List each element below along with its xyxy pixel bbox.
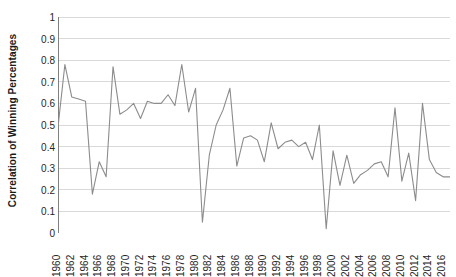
x-axis-tick-labels: 1960196219641966196819701972197419761978… xyxy=(58,236,450,277)
x-tick-label: 2000 xyxy=(327,255,337,277)
x-tick-label: 1976 xyxy=(162,255,172,277)
x-tick-label: 2008 xyxy=(382,255,392,277)
plot-area xyxy=(58,12,450,233)
x-tick-label: 1982 xyxy=(203,255,213,277)
x-tick-label: 1964 xyxy=(80,255,90,277)
x-tick-label: 2014 xyxy=(423,255,433,277)
x-tick-label: 1984 xyxy=(217,255,227,277)
y-tick-label: 0.1 xyxy=(41,206,55,217)
y-tick-label: 0.4 xyxy=(41,141,55,152)
x-tick-label: 1986 xyxy=(231,255,241,277)
y-tick-label: 0.9 xyxy=(41,33,55,44)
x-tick-label: 1970 xyxy=(121,255,131,277)
chart-container: Correlation of Winning Percentages 00.10… xyxy=(0,0,456,277)
gridlines xyxy=(58,17,450,211)
x-tick-label: 2004 xyxy=(355,255,365,277)
x-tick-label: 1972 xyxy=(135,255,145,277)
x-tick-label: 1992 xyxy=(272,255,282,277)
x-tick-label: 2002 xyxy=(341,255,351,277)
y-tick-label: 1 xyxy=(49,12,55,23)
x-tick-label: 1966 xyxy=(93,255,103,277)
y-tick-label: 0.2 xyxy=(41,184,55,195)
y-tick-label: 0.8 xyxy=(41,55,55,66)
x-tick-label: 1978 xyxy=(176,255,186,277)
y-axis-tick-labels: 00.10.20.30.40.50.60.70.80.91 xyxy=(26,0,58,245)
y-tick-label: 0 xyxy=(49,228,55,239)
x-tick-label: 1988 xyxy=(245,255,255,277)
y-tick-label: 0.7 xyxy=(41,76,55,87)
x-tick-label: 1974 xyxy=(148,255,158,277)
x-tick-label: 2010 xyxy=(396,255,406,277)
y-tick-label: 0.5 xyxy=(41,120,55,131)
x-tick-label: 1960 xyxy=(52,255,62,277)
x-tick-label: 1980 xyxy=(190,255,200,277)
x-tick-label: 2012 xyxy=(410,255,420,277)
x-tick-label: 2006 xyxy=(368,255,378,277)
x-tick-label: 2016 xyxy=(437,255,447,277)
y-axis-title-label: Correlation of Winning Percentages xyxy=(8,33,19,206)
y-axis-title: Correlation of Winning Percentages xyxy=(0,0,26,240)
line-chart-svg xyxy=(58,12,450,233)
x-tick-label: 1968 xyxy=(107,255,117,277)
x-tick-label: 1990 xyxy=(258,255,268,277)
y-tick-label: 0.3 xyxy=(41,163,55,174)
x-tick-label: 1962 xyxy=(66,255,76,277)
y-tick-label: 0.6 xyxy=(41,98,55,109)
x-tick-label: 1996 xyxy=(300,255,310,277)
x-tick-label: 1998 xyxy=(313,255,323,277)
x-tick-label: 1994 xyxy=(286,255,296,277)
